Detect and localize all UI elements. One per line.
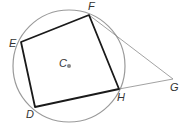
- label-c: C: [59, 57, 67, 69]
- quadrilateral-defh: [21, 15, 119, 107]
- center-point-c: [67, 64, 71, 68]
- label-d: D: [26, 108, 34, 120]
- geometry-diagram: E F H D G C: [0, 0, 184, 125]
- label-g: G: [170, 81, 179, 93]
- label-e: E: [9, 37, 17, 49]
- label-f: F: [88, 0, 96, 12]
- tangent-hg: [119, 79, 173, 89]
- label-h: H: [117, 91, 125, 103]
